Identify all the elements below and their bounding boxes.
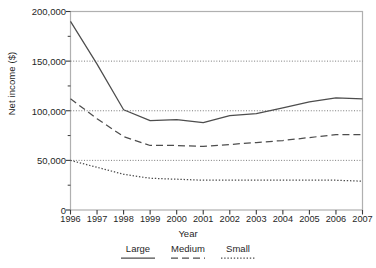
- x-tick-label-2006: 2006: [326, 214, 346, 224]
- chart-figure: Net income ($) 0 50,000 100,000 150,000 …: [0, 0, 376, 268]
- legend-item-medium: Medium: [171, 243, 205, 260]
- x-axis-label: Year: [0, 228, 376, 239]
- y-tick-label-150000: 150,000: [32, 55, 66, 66]
- x-tick-label-1998: 1998: [113, 214, 133, 224]
- legend-label-large: Large: [126, 243, 150, 254]
- legend-sample-medium: [171, 256, 205, 260]
- y-tick-label-200000: 200,000: [32, 6, 66, 17]
- legend-item-large: Large: [121, 243, 155, 260]
- x-tick-label-1996: 1996: [60, 214, 80, 224]
- y-tick-label-100000: 100,000: [32, 105, 66, 116]
- legend-label-small: Small: [226, 243, 250, 254]
- series-line-small: [71, 160, 363, 181]
- legend-sample-large: [121, 256, 155, 260]
- x-tick-label-1997: 1997: [87, 214, 107, 224]
- y-axis-ticks: [66, 12, 71, 211]
- series-line-medium: [71, 99, 363, 147]
- legend-sample-small: [221, 256, 255, 260]
- series-line-large: [71, 21, 363, 122]
- x-tick-label-2003: 2003: [246, 214, 266, 224]
- legend-label-medium: Medium: [171, 243, 205, 254]
- x-tick-label-1999: 1999: [140, 214, 160, 224]
- x-tick-label-2005: 2005: [299, 214, 319, 224]
- x-tick-label-2001: 2001: [193, 214, 213, 224]
- y-tick-label-50000: 50,000: [37, 155, 66, 166]
- x-tick-label-2004: 2004: [273, 214, 293, 224]
- x-tick-label-2002: 2002: [220, 214, 240, 224]
- legend-item-small: Small: [221, 243, 255, 260]
- x-tick-label-2007: 2007: [352, 214, 372, 224]
- x-tick-label-2000: 2000: [166, 214, 186, 224]
- chart-legend: LargeMediumSmall: [0, 243, 376, 260]
- data-series-group: [71, 21, 363, 181]
